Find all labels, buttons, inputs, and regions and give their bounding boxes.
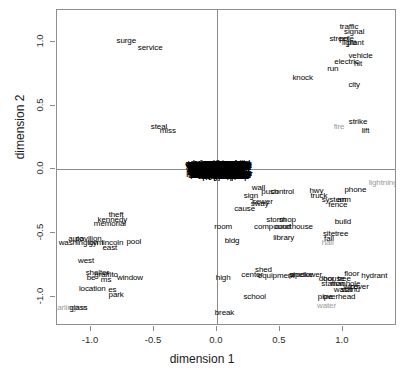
y-axis-tick: [50, 105, 55, 106]
data-point-label: plant: [347, 39, 364, 47]
data-point-label: overhead: [323, 293, 356, 301]
data-point-label: surge: [117, 37, 137, 45]
x-axis-tick: [279, 326, 280, 331]
data-point-label: east: [103, 244, 118, 252]
data-point-label: school: [243, 293, 266, 301]
y-axis-tick: [50, 41, 55, 42]
plot-area: wirepolecoverunitmainlampboxlinemeterroa…: [56, 9, 396, 325]
x-axis-tick-label: 0.5: [272, 334, 285, 345]
data-point-label: service: [138, 44, 163, 52]
data-point-label: water: [317, 302, 336, 310]
x-axis-tick-label: 1.0: [335, 334, 348, 345]
x-axis-tick: [153, 326, 154, 331]
x-axis-tick: [216, 326, 217, 331]
y-axis-tick: [50, 168, 55, 169]
data-point-label: base: [198, 162, 214, 170]
x-axis-tick-label: 0.0: [209, 334, 222, 345]
y-axis-title: dimension 2: [13, 77, 27, 177]
data-point-label: run: [327, 65, 338, 73]
data-point-label: build: [335, 218, 351, 226]
y-axis-tick: [50, 296, 55, 297]
data-point-label: knock: [292, 74, 312, 82]
data-point-label: hit: [354, 60, 362, 68]
data-point-label: window: [117, 274, 143, 282]
y-axis-tick-label: -1.0: [34, 288, 45, 304]
x-axis-tick: [90, 326, 91, 331]
data-point-label: location: [79, 285, 106, 293]
y-axis-tick: [50, 232, 55, 233]
data-point-label: lift: [362, 127, 370, 135]
data-point-label: memorial: [94, 220, 126, 228]
data-point-label: fire: [334, 123, 345, 131]
data-point-label: break: [215, 309, 235, 317]
data-point-label: pool: [126, 238, 141, 246]
data-point-label: miss: [160, 127, 176, 135]
data-point-label: park: [109, 291, 124, 299]
y-axis-tick-label: 1.0: [34, 34, 45, 47]
data-point-label: hydrant: [361, 272, 387, 280]
data-point-label: courthouse: [274, 223, 313, 231]
data-point-label: room: [214, 223, 232, 231]
data-point-label: phone: [345, 186, 367, 194]
mds-scatter-plot-figure: wirepolecoverunitmainlampboxlinemeterroa…: [0, 0, 404, 376]
x-axis-title: dimension 1: [0, 352, 404, 366]
y-axis-tick-label: 0.0: [34, 162, 45, 175]
data-point-label: strike: [349, 118, 368, 126]
x-axis-tick: [342, 326, 343, 331]
data-point-label: cause: [234, 205, 255, 213]
x-axis-tick-label: -1.0: [82, 334, 98, 345]
x-axis-tick-label: -0.5: [145, 334, 161, 345]
data-point-label: high: [216, 274, 231, 282]
data-point-label: hall: [322, 239, 334, 247]
data-point-label: tree: [335, 230, 348, 238]
y-axis-tick-label: 0.5: [34, 98, 45, 111]
data-point-label: glass: [69, 304, 87, 312]
y-axis-tick-label: -0.5: [34, 224, 45, 240]
data-point-label: ms: [101, 276, 111, 284]
data-point-label: west: [78, 257, 94, 265]
data-point-label: lightning: [369, 179, 396, 187]
data-point-label: library: [273, 234, 294, 242]
data-point-label: fence: [328, 201, 347, 209]
data-point-label: vault: [224, 172, 240, 180]
data-point-label: duct: [233, 160, 247, 168]
data-point-label: control: [271, 188, 294, 196]
data-point-label: bldg: [225, 237, 240, 245]
data-point-label: city: [348, 81, 360, 89]
